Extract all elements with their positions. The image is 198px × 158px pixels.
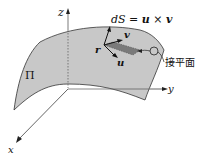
tangent-plane-label: 接平面 xyxy=(165,58,195,68)
y-axis-label: y xyxy=(168,84,174,94)
z-axis-arrowhead xyxy=(66,8,70,14)
ds-equation: dS = u × v xyxy=(111,13,172,26)
eq-v: v xyxy=(166,13,172,26)
vector-v-label: v xyxy=(124,30,130,40)
eq-u: u xyxy=(142,13,150,26)
z-axis-label: z xyxy=(58,7,64,18)
vector-u-label: u xyxy=(117,58,124,68)
surface-pi xyxy=(14,27,164,110)
surface-element-diagram: z y x Π dS = u × v r v u 接平面 xyxy=(0,0,198,158)
surface-label: Π xyxy=(25,70,35,81)
cross-sign: × xyxy=(153,13,162,26)
ds-symbol: dS xyxy=(111,13,126,26)
vector-r-label: r xyxy=(95,45,100,55)
x-axis-label: x xyxy=(8,145,14,155)
equals-sign: = xyxy=(129,13,138,26)
